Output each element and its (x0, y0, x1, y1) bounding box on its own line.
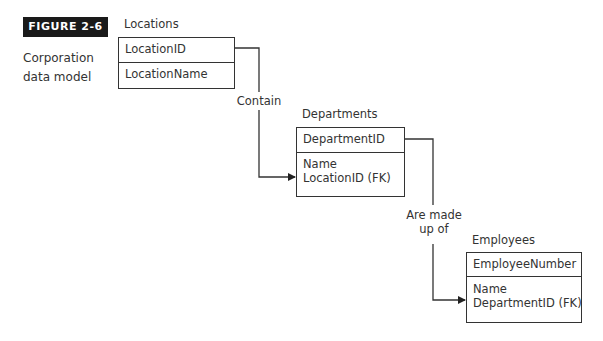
attribute-field: LocationID (FK) (303, 171, 404, 185)
relationship-label-line: up of (406, 222, 462, 236)
attribute-field: Name (473, 282, 581, 296)
attribute-list: Name LocationID (FK) (297, 153, 404, 185)
figure-number-badge: FIGURE 2-6 (23, 17, 108, 37)
entity-box-employees[interactable]: EmployeeNumber Name DepartmentID (FK) (466, 252, 582, 323)
primary-key-field: EmployeeNumber (467, 253, 581, 277)
attribute-field: Name (303, 157, 404, 171)
primary-key-field: DepartmentID (297, 128, 404, 153)
primary-key-field: LocationID (119, 38, 234, 63)
relationship-label-contain: Contain (236, 94, 282, 109)
figure-caption: Corporation data model (23, 49, 118, 87)
attribute-field: DepartmentID (FK) (473, 296, 581, 310)
relationship-label-line: Are made (406, 208, 462, 222)
attribute-list: Name DepartmentID (FK) (467, 277, 581, 310)
entity-title-employees: Employees (472, 233, 535, 247)
attribute-list: LocationName (119, 63, 234, 81)
entity-box-departments[interactable]: DepartmentID Name LocationID (FK) (296, 127, 405, 197)
relationship-label-line: Contain (237, 94, 281, 108)
entity-title-departments: Departments (302, 107, 378, 121)
attribute-field: LocationName (125, 67, 234, 81)
relationship-label-are-made-up-of: Are made up of (406, 208, 462, 236)
connector-locations-departments (234, 48, 295, 177)
entity-title-locations: Locations (124, 17, 179, 31)
entity-box-locations[interactable]: LocationID LocationName (118, 37, 235, 89)
